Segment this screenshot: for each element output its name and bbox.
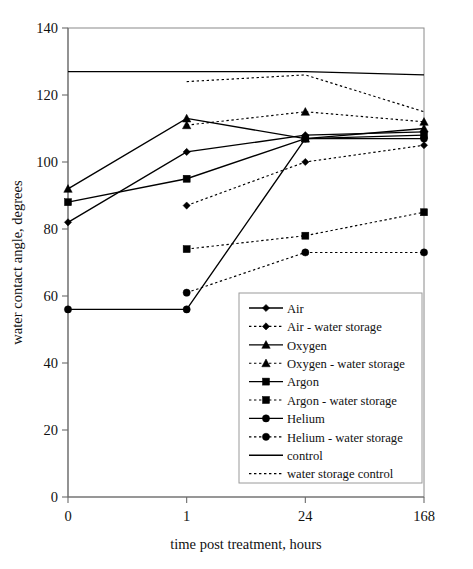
- legend-label: Helium: [287, 412, 325, 426]
- legend-label: Oxygen - water storage: [287, 357, 405, 371]
- legend-label: Air: [287, 302, 305, 316]
- marker-circle: [262, 415, 269, 422]
- legend-layer[interactable]: AirAir - water storageOxygenOxygen - wat…: [239, 293, 422, 483]
- legend-label: Argon - water storage: [287, 394, 397, 408]
- x-tick-label: 0: [64, 508, 71, 524]
- y-tick-label: 80: [44, 221, 59, 237]
- x-tick-label: 24: [298, 508, 313, 524]
- marker-circle: [183, 289, 190, 296]
- marker-circle: [302, 135, 309, 142]
- y-tick-label: 100: [36, 154, 58, 170]
- marker-square: [183, 175, 190, 182]
- legend-label: control: [287, 449, 323, 463]
- x-axis-title: time post treatment, hours: [170, 536, 322, 552]
- y-tick-label: 20: [44, 422, 59, 438]
- marker-circle: [262, 433, 269, 440]
- marker-square: [183, 246, 190, 253]
- marker-circle: [302, 249, 309, 256]
- chart-figure: 0204060801001201400124168 AirAir - water…: [0, 0, 473, 569]
- y-axis-title: water contact angle, degrees: [9, 180, 25, 345]
- y-tick-label: 40: [44, 355, 59, 371]
- marker-square: [263, 397, 270, 404]
- marker-square: [421, 209, 428, 216]
- y-tick-label: 140: [36, 20, 58, 36]
- legend-label: water storage control: [287, 467, 394, 481]
- marker-square: [302, 232, 309, 239]
- y-tick-label: 60: [44, 288, 59, 304]
- legend-label: Air - water storage: [287, 320, 382, 334]
- legend-label: Helium - water storage: [287, 431, 403, 445]
- marker-circle: [64, 306, 71, 313]
- marker-square: [65, 199, 72, 206]
- y-tick-label: 120: [36, 87, 58, 103]
- marker-square: [263, 378, 270, 385]
- marker-circle: [420, 135, 427, 142]
- y-tick-label: 0: [51, 489, 58, 505]
- marker-circle: [420, 249, 427, 256]
- marker-circle: [183, 306, 190, 313]
- x-tick-label: 1: [183, 508, 190, 524]
- legend-label: Argon: [287, 375, 320, 389]
- line-chart-svg: 0204060801001201400124168 AirAir - water…: [0, 0, 473, 569]
- x-tick-label: 168: [413, 508, 435, 524]
- legend-label: Oxygen: [287, 339, 328, 353]
